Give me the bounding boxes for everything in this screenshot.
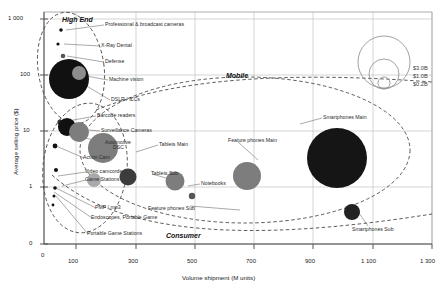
x-tick-900: 900 — [305, 258, 315, 264]
x-tick-0: 0 — [41, 252, 44, 258]
zone-label-mobile: Mobile — [226, 72, 248, 79]
point-label-defense: Defense — [105, 59, 124, 64]
legend-size-1b: $1.0B — [413, 73, 428, 79]
legend-size-02b: $0.2B — [413, 81, 428, 87]
point-label-smartphones-main: Smartphones Main — [323, 115, 367, 120]
x-tick-300: 300 — [128, 258, 138, 264]
point-label-game-stations: Game Stations — [85, 177, 119, 182]
x-tick-1300: 1 300 — [420, 258, 435, 264]
point-label-machine-vision: Machine vision — [109, 77, 143, 82]
point-label-surveillance-cameras: Surveillance Cameras — [101, 128, 152, 133]
x-axis-title: Volume shipment (M units) — [182, 274, 255, 281]
y-tick-1: 1 — [29, 183, 32, 189]
point-label-tablets-sub: Tablets Sub — [151, 171, 178, 176]
point-label-pmp-mp3: PMP / mp3 — [95, 205, 121, 210]
bubble-professional-broadcast-cameras — [59, 28, 63, 32]
chart-canvas — [0, 0, 446, 294]
point-label-action-cam: Action Cam — [83, 155, 110, 160]
bubble-action-cam — [53, 144, 58, 149]
point-label-professional-broadcast-cameras: Professional & broadcast cameras — [105, 22, 184, 27]
y-tick-100: 100 — [20, 71, 30, 77]
legend-size-3b: $3.0B — [413, 65, 428, 71]
bubble-xray-dental — [56, 42, 59, 45]
bubble-smartphones-sub — [344, 204, 360, 220]
y-axis-title: Average selling price ($) — [12, 108, 19, 175]
x-tick-1100: 1 100 — [361, 258, 376, 264]
point-label-barcode-readers: Barcode readers — [97, 113, 135, 118]
bubble-feature-phones-main — [233, 162, 261, 190]
y-tick-1000: 1 000 — [8, 15, 23, 21]
bubble-dslr-ilcs — [72, 66, 86, 80]
bubble-smartphones-main — [307, 128, 367, 188]
point-label-xray-dental: X-Ray Dental — [101, 43, 132, 48]
point-label-notebooks: Notebooks — [201, 181, 226, 186]
bubble-portable-game-stations — [52, 204, 55, 207]
point-label-feature-phones-sub: Feature phones Sub — [148, 206, 195, 211]
x-tick-500: 500 — [187, 258, 197, 264]
bubble-pmp-mp3 — [53, 186, 57, 190]
point-label-dslr-ilcs: DSLR / ILCs — [111, 97, 140, 102]
bubble-automotive — [69, 122, 89, 142]
point-label-endoscopes-portable-game: Endoscopes, Portable Game — [91, 215, 157, 220]
point-label-smartphones-sub: Smartphones Sub — [352, 227, 394, 232]
x-tick-100: 100 — [68, 258, 78, 264]
zone-label-high-end: High End — [62, 16, 93, 23]
y-tick-0: 0 — [29, 240, 32, 246]
x-tick-marks — [76, 244, 432, 249]
point-label-dsc: DSC — [113, 145, 124, 150]
point-label-tablets-main: Tablets Main — [159, 142, 188, 147]
point-label-feature-phones-main: Feature phones Main — [228, 138, 277, 143]
bubble-defense — [61, 54, 66, 59]
zone-label-consumer: Consumer — [166, 232, 201, 239]
x-tick-700: 700 — [246, 258, 256, 264]
bubble-machine-vision — [49, 59, 89, 99]
bubble-chart: 1 000 100 10 1 0 0 100 300 500 700 900 1… — [0, 0, 446, 294]
point-label-portable-game-stations: Portable Game Stations — [87, 231, 142, 236]
bubble-endoscopes-portable-game — [53, 195, 56, 198]
y-tick-10: 10 — [23, 127, 30, 133]
bubble-video-camcorder — [54, 168, 58, 172]
bubble-feature-phones-sub — [189, 193, 195, 199]
point-label-video-camcorder: Video camcorder — [85, 169, 124, 174]
